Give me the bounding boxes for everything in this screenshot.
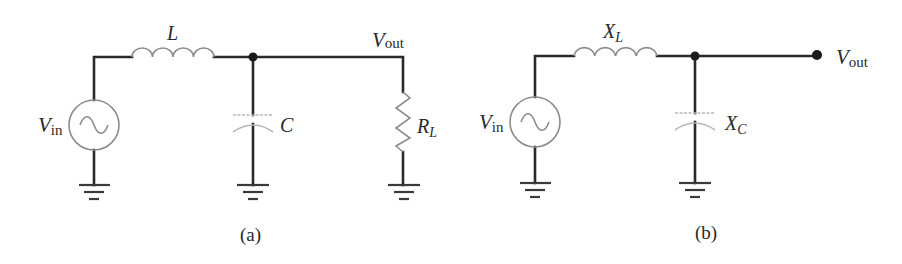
wire-inductor-to-output bbox=[214, 57, 403, 92]
load-label: RL bbox=[416, 115, 437, 140]
ac-source-icon bbox=[69, 100, 119, 150]
ac-source-icon bbox=[510, 97, 560, 147]
inductor-label: L bbox=[166, 22, 178, 44]
circuit-a: Vin L C RL Vout (a) bbox=[38, 22, 437, 246]
circuit-b: Vin XL XC Vout (b) bbox=[479, 20, 869, 244]
ground-icon bbox=[520, 183, 551, 197]
junction-node bbox=[249, 53, 258, 62]
ground-icon bbox=[237, 185, 269, 199]
source-label: Vin bbox=[38, 113, 63, 138]
inductor-icon bbox=[574, 48, 657, 56]
panel-caption-b: (b) bbox=[695, 222, 717, 244]
ground-icon bbox=[79, 185, 110, 199]
source-label: Vin bbox=[479, 110, 504, 135]
wire-source-to-inductor bbox=[94, 57, 132, 100]
inductor-label: XL bbox=[602, 20, 623, 45]
junction-node bbox=[691, 52, 700, 61]
capacitor-label: C bbox=[280, 114, 294, 136]
inductor-icon bbox=[132, 48, 214, 57]
ground-icon bbox=[679, 183, 711, 197]
output-terminal bbox=[812, 50, 822, 60]
output-label: Vout bbox=[836, 45, 869, 70]
ground-icon bbox=[388, 185, 420, 199]
output-label: Vout bbox=[372, 28, 405, 52]
panel-caption-a: (a) bbox=[240, 224, 261, 246]
resistor-icon bbox=[396, 92, 410, 152]
wire-source-to-inductor bbox=[535, 56, 574, 97]
capacitor-label: XC bbox=[724, 112, 747, 137]
